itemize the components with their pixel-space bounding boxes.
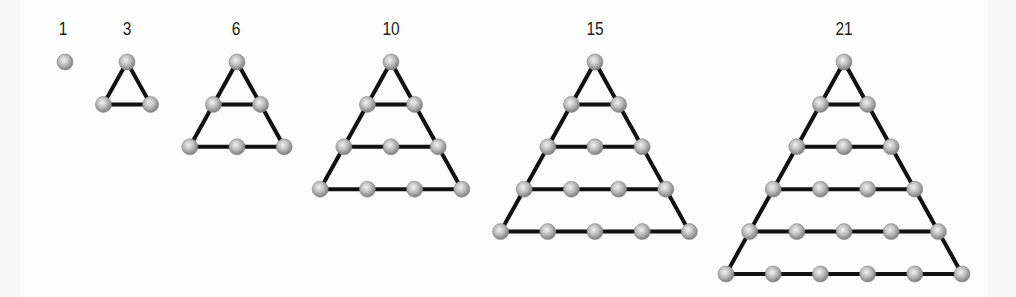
edge-lines [103, 62, 962, 274]
sphere-node [454, 181, 470, 197]
sphere-node [812, 181, 828, 197]
sphere-node [860, 181, 876, 197]
sphere-node [383, 139, 399, 155]
sphere-node [907, 266, 923, 282]
sphere-node [336, 139, 352, 155]
sphere-node [430, 139, 446, 155]
sphere-node [954, 266, 970, 282]
edge-line [391, 62, 462, 189]
sphere-node [587, 224, 603, 240]
sphere-node [634, 139, 650, 155]
sphere-node [860, 266, 876, 282]
figure-label-10: 10 [382, 19, 399, 39]
sphere-node [883, 224, 899, 240]
sphere-node [587, 139, 603, 155]
sphere-node [907, 181, 923, 197]
sphere-node [312, 181, 328, 197]
sphere-node [789, 139, 805, 155]
sphere-node [765, 266, 781, 282]
sphere-node [407, 181, 423, 197]
sphere-node [540, 224, 556, 240]
sphere-node [718, 266, 734, 282]
sphere-node [860, 96, 876, 112]
edge-line [726, 62, 844, 274]
sphere-node [812, 266, 828, 282]
sphere-node [276, 139, 292, 155]
sphere-node [563, 96, 579, 112]
sphere-node [143, 96, 159, 112]
figure-label-21: 21 [835, 19, 852, 39]
edge-line [844, 62, 962, 274]
triangular-numbers-diagram: 1 3 6 10 15 21 [0, 0, 1016, 297]
node-spheres [57, 54, 970, 282]
sphere-node [563, 181, 579, 197]
sphere-node [836, 139, 852, 155]
figure-label-3: 3 [123, 19, 132, 39]
sphere-node [765, 181, 781, 197]
sphere-node [516, 181, 532, 197]
sphere-node [812, 96, 828, 112]
sphere-node [253, 96, 269, 112]
sphere-node [359, 96, 375, 112]
sphere-node [95, 96, 111, 112]
sphere-node [836, 54, 852, 70]
sphere-node [407, 96, 423, 112]
figure-label-1: 1 [59, 19, 68, 39]
sphere-node [229, 139, 245, 155]
sphere-node [229, 54, 245, 70]
figure-label-6: 6 [232, 19, 241, 39]
sphere-node [789, 224, 805, 240]
sphere-node [493, 224, 509, 240]
sphere-node [930, 224, 946, 240]
sphere-node [634, 224, 650, 240]
sphere-node [883, 139, 899, 155]
sphere-node [182, 139, 198, 155]
sphere-node [205, 96, 221, 112]
figure-label-15: 15 [586, 19, 603, 39]
sphere-node [742, 224, 758, 240]
edge-line [320, 62, 391, 189]
sphere-node [611, 181, 627, 197]
sphere-node [658, 181, 674, 197]
sphere-node [587, 54, 603, 70]
sphere-node [57, 54, 73, 70]
triangle-figures [0, 0, 1016, 297]
sphere-node [383, 54, 399, 70]
sphere-node [836, 224, 852, 240]
sphere-node [540, 139, 556, 155]
sphere-node [611, 96, 627, 112]
sphere-node [681, 224, 697, 240]
sphere-node [119, 54, 135, 70]
sphere-node [359, 181, 375, 197]
